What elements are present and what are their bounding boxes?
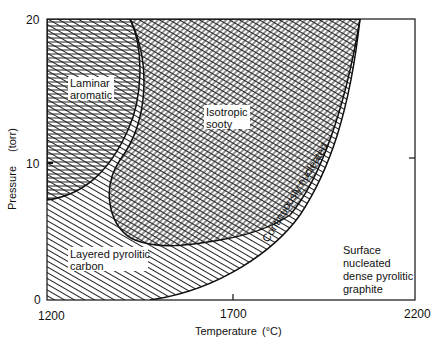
- label-surface-line1: Surface: [343, 244, 381, 256]
- x-tick-1700: 1700: [220, 307, 247, 321]
- label-surface-line2: nucleated: [343, 257, 391, 269]
- label-laminar-line2: aromatic: [70, 89, 113, 101]
- x-tick-1200: 1200: [38, 309, 65, 323]
- y-tick-0: 0: [34, 293, 41, 307]
- label-isotropic-line2: sooty: [206, 118, 233, 130]
- label-layered-line1: Layered pyrolitic: [70, 248, 151, 260]
- y-tick-20: 20: [26, 13, 40, 27]
- phase-diagram: 20 10 0 1200 1700 2200 Temperature (°C) …: [0, 0, 440, 351]
- label-surface-line4: graphite: [343, 283, 383, 295]
- x-axis-title: Temperature: [195, 325, 257, 337]
- region-isotropic-sooty: [109, 19, 360, 246]
- x-axis-unit: (°C): [262, 325, 282, 337]
- label-isotropic-line1: Isotropic: [206, 106, 248, 118]
- label-surface-line3: dense pyrolitic: [343, 270, 414, 282]
- y-tick-10: 10: [26, 157, 40, 171]
- y-axis-unit: (torr): [6, 128, 18, 152]
- x-tick-2200: 2200: [404, 307, 431, 321]
- y-axis-title: Pressure: [6, 166, 18, 210]
- label-layered-line2: carbon: [70, 260, 104, 272]
- label-laminar-line1: Laminar: [70, 77, 110, 89]
